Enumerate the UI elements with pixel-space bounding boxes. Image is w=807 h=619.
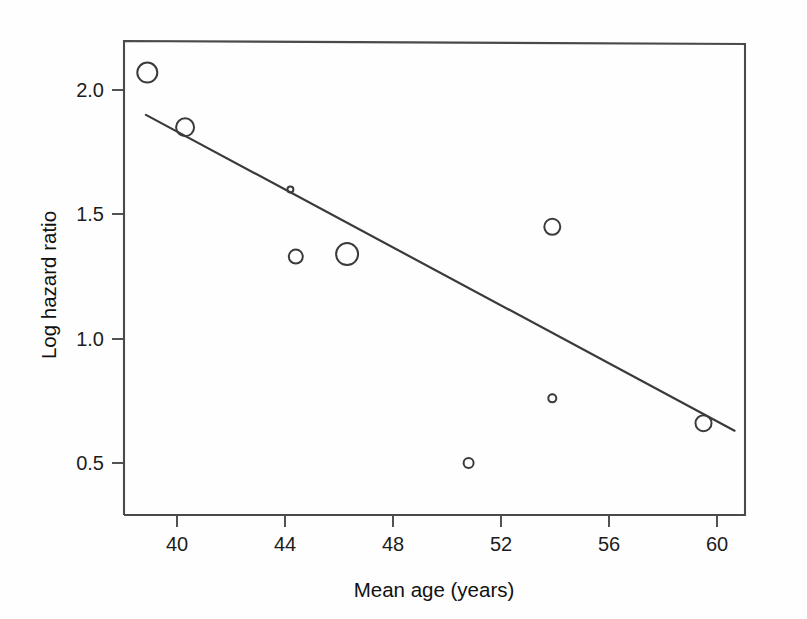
- plot-frame: [124, 41, 745, 515]
- data-point-marker: [336, 243, 358, 265]
- x-tick-label-40: 40: [166, 533, 188, 555]
- data-point-marker: [464, 458, 474, 468]
- data-point-marker: [544, 219, 560, 235]
- data-point-marker: [289, 250, 303, 264]
- data-point-marker: [548, 394, 556, 402]
- x-tick-label-52: 52: [490, 533, 512, 555]
- scatter-plot: 2.0 1.5 1.0 0.5 40 44 48 52 56 60 Mean a…: [0, 0, 807, 619]
- x-axis-title: Mean age (years): [354, 578, 515, 601]
- regression-line: [146, 115, 735, 431]
- figure-panel: 2.0 1.5 1.0 0.5 40 44 48 52 56 60 Mean a…: [0, 0, 807, 619]
- data-point-marker: [696, 415, 712, 431]
- data-point-marker: [176, 118, 194, 136]
- y-tick-label-1-5: 1.5: [76, 203, 104, 225]
- y-axis-title: Log hazard ratio: [37, 211, 60, 359]
- y-tick-label-1-0: 1.0: [76, 328, 104, 350]
- y-tick-label-2-0: 2.0: [76, 79, 104, 101]
- y-axis-ticks: 2.0 1.5 1.0 0.5: [76, 79, 124, 474]
- data-point-marker: [137, 63, 157, 83]
- x-tick-label-56: 56: [598, 533, 620, 555]
- x-tick-label-48: 48: [382, 533, 404, 555]
- y-tick-label-0-5: 0.5: [76, 452, 104, 474]
- data-point-marker: [287, 186, 293, 192]
- x-axis-ticks: 40 44 48 52 56 60: [166, 515, 728, 555]
- x-tick-label-60: 60: [706, 533, 728, 555]
- x-tick-label-44: 44: [274, 533, 296, 555]
